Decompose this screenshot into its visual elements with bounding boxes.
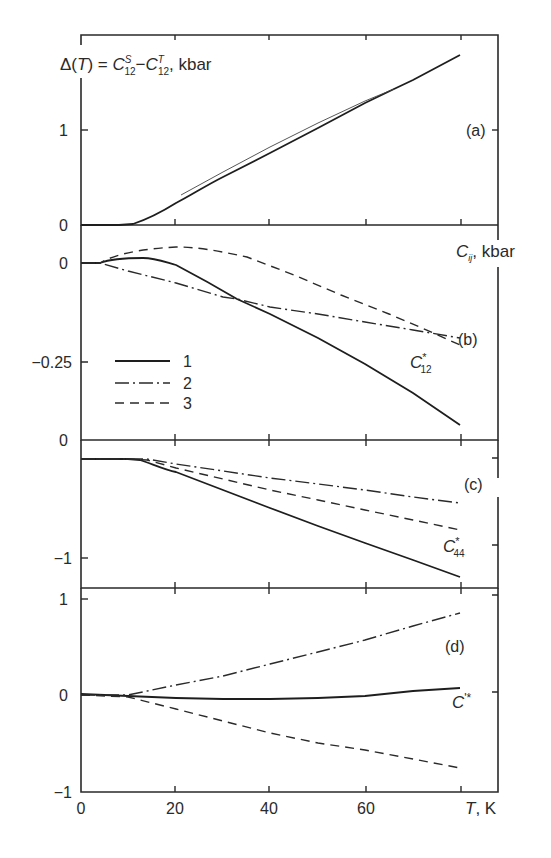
panel-b: 0 −0.25 0 Cij, kbar (b) C*12 1 2 3 [32,225,516,449]
legend: 1 2 3 [115,353,192,412]
legend-label-2: 2 [183,375,192,392]
x-axis-label: T, K [465,799,497,818]
panel-d-bottom-ticks [175,786,461,792]
legend-label-3: 3 [183,395,192,412]
panel-b-bottom-ticks [175,434,461,440]
panel-d-curve-3 [81,695,460,768]
curve-label-c12: C*12 [410,351,432,375]
panel-b-curve-3 [81,247,460,345]
panel-c-right-ticks [492,458,498,545]
panel-c-curve-3 [81,459,460,530]
panel-c-curve-2 [81,459,460,503]
panel-label-a: (a) [466,122,486,139]
ytick-c-0: 0 [59,432,68,449]
ytick-a-1: 1 [59,122,68,139]
panel-a: 1 0 Δ(T) = CS12−CT12, kbar (a) [59,35,498,234]
panel-label-d: (d) [445,638,465,655]
panel-d-top-ticks [175,588,461,594]
xtick-0: 0 [77,800,86,817]
panel-a-ylabel: Δ(T) = CS12−CT12, kbar [60,54,212,77]
ytick-d-0: 0 [59,687,68,704]
figure-elastic-constants: 1 0 Δ(T) = CS12−CT12, kbar (a) 0 −0.25 0… [0,0,551,858]
ytick-a-0: 0 [59,217,68,234]
panel-b-curve-2 [81,263,460,338]
panel-d: 1 0 −1 (d) C'* 0 20 40 60 T, K [54,588,498,818]
panel-c-top-ticks [175,440,461,446]
panel-a-curve-thick [81,55,460,225]
panel-b-left-ticks [81,263,88,362]
xtick-40: 40 [260,800,278,817]
ytick-d-1: 1 [59,591,68,608]
panel-d-curve-2 [81,613,460,695]
panel-c-bottom-ticks [175,582,461,588]
panel-d-right-ticks [492,595,498,692]
ytick-b-0: 0 [59,255,68,272]
panel-b-ylabel: Cij, kbar [456,242,515,263]
panel-c-curve-1 [81,459,460,577]
panel-a-bottom-ticks [175,219,461,225]
ytick-c-neg1: −1 [54,550,72,567]
ytick-d-neg1: −1 [54,784,72,801]
panel-b-curve-1 [81,258,460,425]
curve-label-c44: C*44 [443,535,465,559]
panel-c: −1 (c) C*44 [54,440,498,588]
curve-label-cprime: C'* [452,691,472,712]
ytick-b-neg025: −0.25 [32,354,73,371]
xtick-20: 20 [166,800,184,817]
legend-label-1: 1 [183,353,192,370]
panel-label-c: (c) [464,476,483,493]
panel-c-frame [81,440,498,588]
panel-label-b: (b) [458,331,478,348]
xtick-60: 60 [357,800,375,817]
